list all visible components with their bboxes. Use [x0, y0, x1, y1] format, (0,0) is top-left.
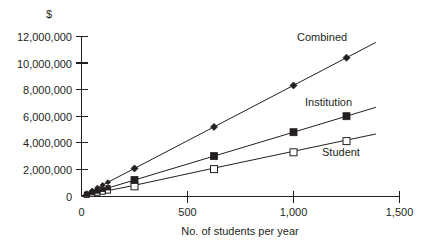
combined-line — [82, 42, 376, 196]
institution-point-125 — [106, 186, 110, 190]
x-axis-tick-labels: 0 500 1,000 1,500 — [78, 206, 413, 218]
series-label-student: Student — [322, 146, 360, 158]
student-point-1250 — [343, 138, 350, 145]
y-tick-label-4000000: 4,000,000 — [23, 137, 72, 149]
combined-point-625 — [211, 123, 218, 130]
y-axis-tick-labels: 12,000,000 10,000,000 8,000,000 6,000,00… — [17, 31, 72, 203]
combined-point-1000 — [290, 82, 297, 89]
series-label-institution: Institution — [305, 96, 352, 108]
institution-point-1250 — [343, 113, 350, 120]
chart-container: 12,000,000 10,000,000 8,000,000 6,000,00… — [0, 0, 428, 242]
student-point-625 — [211, 166, 218, 173]
line-chart: 12,000,000 10,000,000 8,000,000 6,000,00… — [0, 0, 428, 242]
y-tick-label-10000000: 10,000,000 — [17, 58, 72, 70]
combined-point-250 — [131, 165, 138, 172]
x-tick-label-1500: 1,500 — [386, 206, 414, 218]
institution-point-1000 — [290, 129, 297, 136]
student-point-1000 — [290, 149, 297, 156]
x-tick-label-500: 500 — [178, 206, 196, 218]
x-axis-title: No. of students per year — [181, 225, 299, 237]
combined-point-1250 — [343, 54, 350, 61]
series-combined — [82, 42, 376, 196]
y-tick-label-0: 0 — [66, 191, 72, 203]
x-tick-label-1000: 1,000 — [280, 206, 308, 218]
y-axis-unit-label: $ — [46, 8, 52, 20]
student-line — [82, 134, 376, 196]
y-tick-label-8000000: 8,000,000 — [23, 84, 72, 96]
y-tick-label-2000000: 2,000,000 — [23, 164, 72, 176]
combined-point-100 — [100, 183, 105, 188]
x-tick-label-0: 0 — [78, 206, 84, 218]
series-label-combined: Combined — [297, 31, 347, 43]
series-student — [82, 134, 376, 197]
institution-point-250 — [131, 177, 138, 184]
y-tick-label-6000000: 6,000,000 — [23, 111, 72, 123]
combined-point-125 — [106, 180, 111, 185]
institution-point-625 — [211, 153, 218, 160]
y-tick-label-12000000: 12,000,000 — [17, 31, 72, 43]
